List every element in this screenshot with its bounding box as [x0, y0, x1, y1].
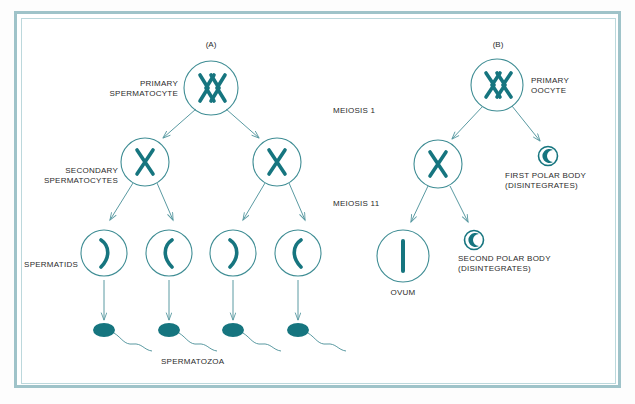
spermatid-cell-2 — [146, 230, 192, 276]
secondary-spermatocyte-cell-left — [121, 138, 169, 186]
spermatid-cell-4 — [275, 230, 321, 276]
arrow-primary-to-secondary-right — [226, 109, 259, 138]
sperm-tail-icon — [243, 333, 281, 351]
spermatozoon-1 — [93, 323, 152, 351]
first-polar-body-label: FIRST POLAR BODY (DISINTEGRATES) — [505, 171, 625, 191]
spermatozoa-label: SPERMATOZOA — [161, 357, 281, 367]
sperm-tail-icon — [308, 333, 346, 351]
arrow-oocyte-to-secondary-oocyte — [452, 106, 483, 139]
meiosis-diagram-figure: (A) (B) PRIMARY SPERMATOCYTE SECONDARY S… — [0, 0, 635, 404]
secondary-spermatocytes-label: SECONDARY SPERMATOCYTES — [18, 166, 118, 186]
ovum-cell — [377, 230, 429, 282]
first-polar-body — [539, 147, 558, 166]
sperm-tail-icon — [114, 333, 152, 351]
panel-a-tag: (A) — [181, 40, 241, 49]
second-polar-body — [465, 231, 484, 250]
ovum-label: OVUM — [373, 288, 433, 298]
arrow-secondary-right-to-spermatid-3 — [243, 183, 265, 220]
arrow-secondary-oocyte-to-ovum — [411, 186, 428, 222]
spermatozoon-2 — [158, 323, 217, 351]
spermatid-cell-3 — [210, 230, 256, 276]
second-polar-body-label: SECOND POLAR BODY (DISINTEGRATES) — [458, 254, 588, 274]
panel-b-tag: (B) — [468, 40, 528, 49]
arrow-secondary-left-to-spermatid-1 — [110, 183, 133, 220]
meiosis-2-label: MEIOSIS 11 — [333, 199, 413, 209]
arrow-primary-to-secondary-left — [163, 109, 196, 138]
spermatids-label: SPERMATIDS — [18, 260, 78, 270]
secondary-oocyte-cell — [414, 140, 462, 188]
spermatozoon-3 — [222, 323, 281, 351]
arrow-secondary-oocyte-to-second-polar-body — [450, 186, 468, 222]
spermatozoon-4 — [287, 323, 346, 351]
diagram-canvas — [0, 0, 635, 404]
arrow-secondary-left-to-spermatid-2 — [157, 183, 173, 220]
primary-spermatocyte-cell — [184, 61, 238, 115]
arrow-oocyte-to-first-polar-body — [512, 106, 540, 141]
meiosis-1-label: MEIOSIS 1 — [333, 106, 413, 116]
primary-oocyte-label: PRIMARY OOCYTE — [531, 76, 621, 96]
secondary-spermatocyte-cell-right — [253, 138, 301, 186]
sperm-tail-icon — [179, 333, 217, 351]
primary-oocyte-cell — [471, 59, 523, 111]
arrow-secondary-right-to-spermatid-4 — [289, 183, 305, 220]
primary-spermatocyte-label: PRIMARY SPERMATOCYTE — [78, 79, 178, 99]
spermatid-cell-1 — [81, 230, 127, 276]
